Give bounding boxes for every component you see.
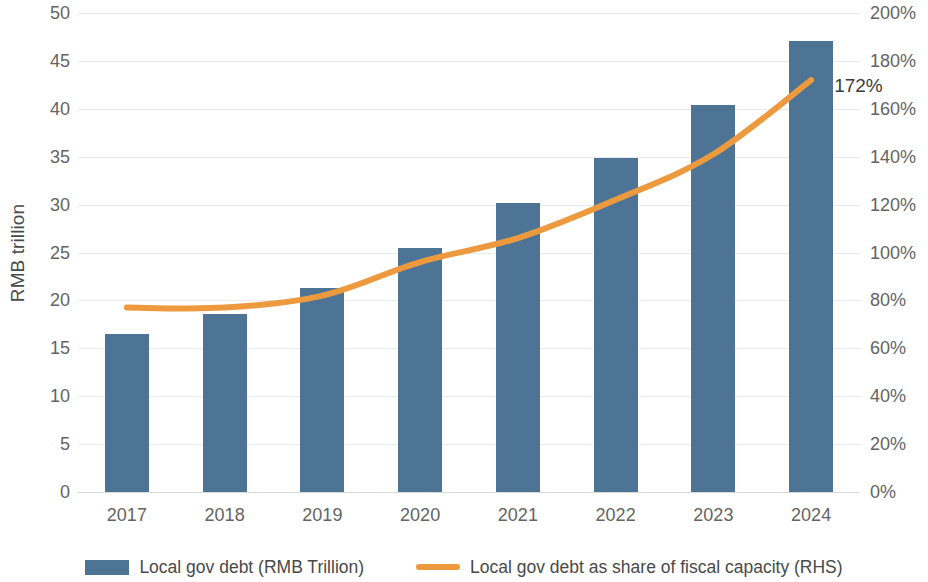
y-tick-right: 20% [870, 435, 906, 453]
x-tick-label: 2022 [567, 505, 665, 535]
chart-legend: Local gov debt (RMB Trillion) Local gov … [0, 552, 928, 582]
plot-area [78, 13, 860, 492]
y-tick-right: 120% [870, 196, 916, 214]
y-tick-right: 200% [870, 4, 916, 22]
y-tick-right: 100% [870, 244, 916, 262]
chart-container: RMB trillion 05101520253035404550 0%20%4… [0, 0, 928, 582]
y-tick-left: 20 [50, 291, 70, 309]
x-tick-label: 2021 [469, 505, 567, 535]
y-tick-left: 15 [50, 339, 70, 357]
y-axis-ticks-left: 05101520253035404550 [28, 0, 70, 505]
legend-label-line-series: Local gov debt as share of fiscal capaci… [470, 557, 843, 578]
y-tick-left: 40 [50, 100, 70, 118]
y-tick-left: 45 [50, 52, 70, 70]
x-tick-label: 2018 [176, 505, 274, 535]
y-tick-right: 40% [870, 387, 906, 405]
y-tick-right: 80% [870, 291, 906, 309]
legend-item-line-series[interactable]: Local gov debt as share of fiscal capaci… [416, 557, 843, 578]
y-tick-left: 35 [50, 148, 70, 166]
y-tick-right: 180% [870, 52, 916, 70]
x-tick-label: 2017 [78, 505, 176, 535]
line-path [127, 80, 811, 308]
y-tick-right: 160% [870, 100, 916, 118]
y-tick-right: 140% [870, 148, 916, 166]
y-tick-right: 0% [870, 483, 896, 501]
y-tick-left: 10 [50, 387, 70, 405]
legend-item-bar-series[interactable]: Local gov debt (RMB Trillion) [85, 557, 364, 578]
data-label-2024: 172% [834, 75, 883, 97]
legend-line-swatch-icon [416, 564, 460, 570]
line-series [78, 13, 860, 492]
x-tick-label: 2020 [371, 505, 469, 535]
x-tick-label: 2023 [665, 505, 763, 535]
gridline [78, 492, 860, 493]
y-tick-left: 0 [60, 483, 70, 501]
legend-label-bar-series: Local gov debt (RMB Trillion) [139, 557, 364, 578]
y-tick-left: 25 [50, 244, 70, 262]
x-axis-category-labels: 20172018201920202021202220232024 [78, 505, 860, 535]
y-tick-left: 50 [50, 4, 70, 22]
y-tick-left: 5 [60, 435, 70, 453]
y-tick-left: 30 [50, 196, 70, 214]
legend-bar-swatch-icon [85, 560, 129, 575]
x-tick-label: 2019 [274, 505, 372, 535]
y-tick-right: 60% [870, 339, 906, 357]
y-axis-title-left-text: RMB trillion [7, 203, 29, 301]
x-tick-label: 2024 [762, 505, 860, 535]
